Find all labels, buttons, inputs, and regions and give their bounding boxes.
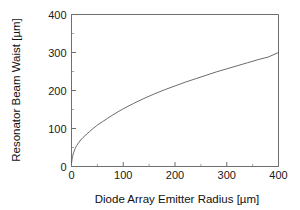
y-axis-title: Resonator Beam Waist [µm] xyxy=(10,18,22,162)
y-tick-label: 300 xyxy=(48,47,66,59)
chart-plot-area: 0100200300400 0100200300400 Diode Array … xyxy=(0,0,300,210)
x-tick-label: 0 xyxy=(68,169,74,181)
y-tick-label: 100 xyxy=(48,123,66,135)
x-tick-label: 200 xyxy=(166,169,184,181)
chart-figure: 0100200300400 0100200300400 Diode Array … xyxy=(0,0,300,210)
x-tick-label: 300 xyxy=(218,169,236,181)
y-tick-label: 200 xyxy=(48,85,66,97)
x-tick-label: 100 xyxy=(114,169,132,181)
y-tick-label: 0 xyxy=(60,161,66,173)
x-axis-title: Diode Array Emitter Radius [µm] xyxy=(95,193,259,205)
y-tick-label: 400 xyxy=(48,9,66,21)
chart-background xyxy=(0,0,300,210)
x-tick-label: 400 xyxy=(269,169,287,181)
